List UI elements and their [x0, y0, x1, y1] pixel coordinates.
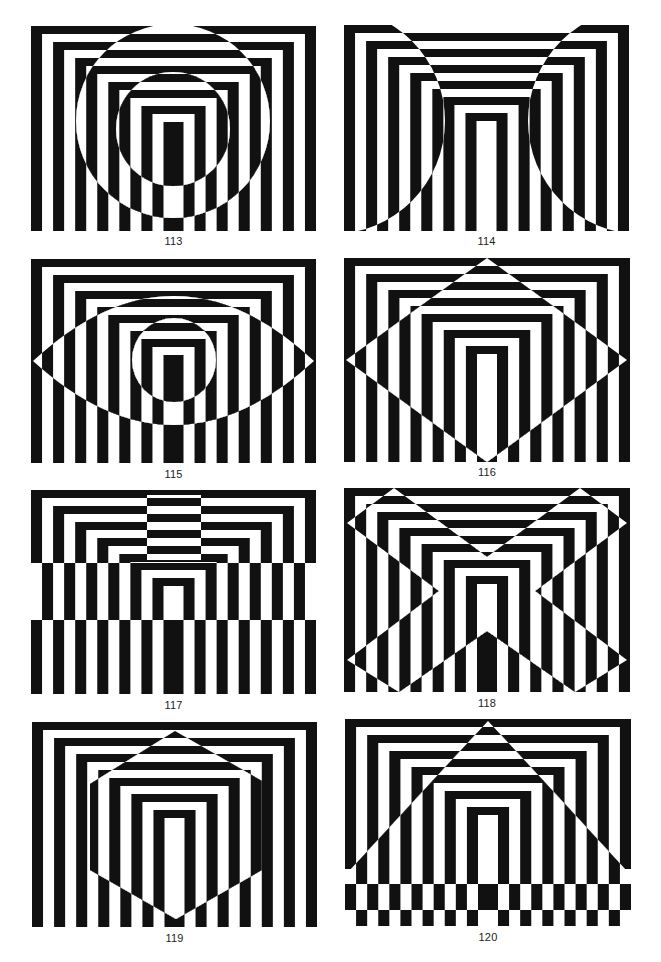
op-art-pattern [344, 25, 629, 231]
figure-120 [345, 719, 631, 926]
figure-caption: 115 [144, 468, 204, 480]
figure-caption: 114 [457, 235, 517, 247]
figure-116 [344, 258, 630, 462]
figure-caption: 120 [458, 931, 518, 943]
figure-117 [31, 490, 316, 694]
figure-caption: 117 [144, 699, 204, 711]
figure-114 [344, 25, 629, 231]
figure-caption: 119 [145, 932, 205, 944]
figure-115 [31, 259, 316, 463]
op-art-pattern [31, 26, 316, 231]
op-art-pattern [31, 490, 316, 694]
figure-caption: 116 [457, 466, 517, 478]
op-art-pattern [345, 719, 631, 926]
figure-caption: 118 [457, 697, 517, 709]
op-art-pattern [31, 259, 316, 463]
figure-119 [32, 722, 317, 927]
op-art-pattern [344, 258, 630, 462]
figure-113 [31, 26, 316, 231]
op-art-pattern [32, 722, 317, 927]
figure-caption: 113 [144, 235, 204, 247]
figure-118 [344, 488, 630, 692]
op-art-pattern [344, 488, 630, 692]
